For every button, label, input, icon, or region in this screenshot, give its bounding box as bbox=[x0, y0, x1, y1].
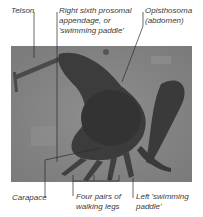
label-opisthosoma: Opisthosoma (abdomen) bbox=[145, 6, 192, 26]
fossil-photo bbox=[11, 46, 192, 182]
fossil-illustration bbox=[11, 46, 192, 182]
label-carapace: Carapace bbox=[12, 193, 47, 203]
label-telson: Telson bbox=[11, 6, 34, 16]
label-right-swimming-paddle: Right sixth prosomal appendage, or 'swim… bbox=[59, 6, 131, 36]
label-left-swimming-paddle: Left 'swimming paddle' bbox=[136, 192, 189, 212]
label-walking-legs: Four pairs of walking legs bbox=[76, 192, 121, 212]
